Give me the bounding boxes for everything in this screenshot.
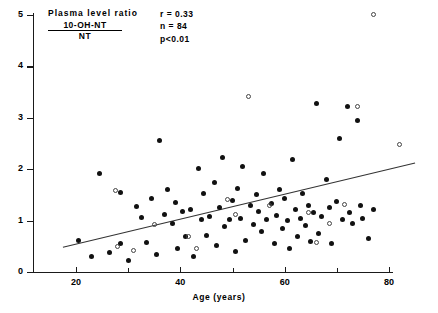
data-point-filled (340, 217, 345, 222)
data-point-filled (358, 203, 363, 208)
data-point-filled (337, 136, 342, 141)
data-point-filled (316, 231, 321, 236)
data-point-filled (272, 241, 277, 246)
data-point-open (371, 12, 376, 17)
data-point-filled (207, 214, 212, 219)
data-point-open (194, 246, 199, 251)
data-point-filled (134, 204, 139, 209)
data-point-filled (264, 217, 269, 222)
data-point-filled (345, 104, 350, 109)
data-point-filled (371, 207, 376, 212)
data-point-filled (256, 209, 261, 214)
data-point-open (233, 212, 238, 217)
data-point-filled (126, 258, 131, 263)
data-point-open (397, 142, 402, 147)
data-point-filled (149, 196, 154, 201)
data-point-open (314, 240, 319, 245)
data-point-open (327, 221, 332, 226)
data-point-filled (230, 198, 235, 203)
data-point-filled (139, 215, 144, 220)
data-point-filled (350, 221, 355, 226)
data-point-filled (314, 101, 319, 106)
scatter-plot-figure: Plasma level ratio 10-OH-NT NT r = 0.33 … (0, 0, 438, 313)
data-point-open (342, 202, 347, 207)
data-point-open (225, 197, 230, 202)
data-point-open (267, 203, 272, 208)
data-point-filled (285, 218, 290, 223)
data-point-filled (154, 252, 159, 257)
data-point-open (115, 244, 120, 249)
data-point-filled (144, 240, 149, 245)
data-point-filled (295, 234, 300, 239)
data-point-filled (293, 207, 298, 212)
data-point-filled (306, 203, 311, 208)
data-point-filled (204, 233, 209, 238)
data-point-filled (191, 254, 196, 259)
data-point-open (186, 234, 191, 239)
data-point-filled (327, 205, 332, 210)
data-point-filled (76, 238, 81, 243)
data-point-open (152, 222, 157, 227)
data-point-filled (282, 196, 287, 201)
data-point-filled (196, 166, 201, 171)
data-point-filled (118, 190, 123, 195)
data-point-open (131, 248, 136, 253)
data-point-open (246, 94, 251, 99)
data-point-filled (173, 200, 178, 205)
data-point-filled (212, 180, 217, 185)
data-point-filled (170, 221, 175, 226)
data-point-filled (298, 216, 303, 221)
data-point-filled (233, 249, 238, 254)
data-point-open (113, 188, 118, 193)
data-point-filled (280, 226, 285, 231)
data-point-filled (366, 236, 371, 241)
data-point-filled (238, 216, 243, 221)
plot-area (0, 0, 438, 313)
data-point-filled (324, 177, 329, 182)
data-point-filled (334, 199, 339, 204)
data-point-filled (319, 214, 324, 219)
data-point-filled (360, 216, 365, 221)
data-point-filled (97, 171, 102, 176)
data-point-filled (199, 217, 204, 222)
data-point-filled (254, 192, 259, 197)
data-point-filled (243, 238, 248, 243)
